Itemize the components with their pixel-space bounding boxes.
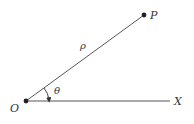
origin-point	[24, 99, 29, 104]
polar-diagram: O P X ρ θ	[0, 0, 194, 124]
radius-label: ρ	[79, 40, 86, 51]
point-label: P	[149, 9, 158, 22]
radius-line	[26, 15, 144, 101]
origin-label: O	[10, 102, 19, 115]
angle-label: θ	[54, 85, 60, 96]
diagram-svg: O P X ρ θ	[0, 0, 194, 124]
point-p	[142, 13, 147, 18]
angle-arc	[44, 88, 49, 100]
axis-label: X	[173, 95, 183, 108]
